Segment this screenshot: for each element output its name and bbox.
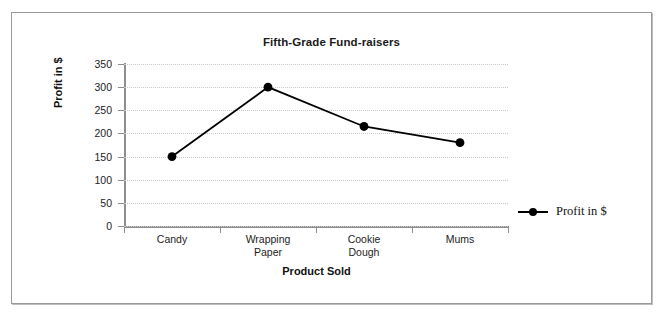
x-axis-title: Product Sold	[124, 265, 509, 277]
legend-label-profit: Profit in $	[556, 204, 607, 219]
data-point-marker: Mums: 180	[456, 138, 465, 147]
y-axis-tick-label: 150	[80, 151, 112, 163]
data-point-marker: Wrapping Paper: 300	[264, 83, 273, 92]
y-axis-tick	[118, 133, 124, 134]
y-axis-tick-label: 250	[80, 104, 112, 116]
y-axis-tick-labels: 050100150200250300350	[80, 0, 112, 317]
y-axis-tick-label: 200	[80, 127, 112, 139]
legend-marker-icon	[518, 206, 548, 218]
y-axis-tick	[118, 203, 124, 204]
plot-area: Candy: 150Wrapping Paper: 300Cookie Doug…	[124, 64, 508, 226]
x-axis-category-label: Candy	[117, 233, 227, 246]
y-axis-tick-label: 300	[80, 81, 112, 93]
y-axis-title: Profit in $	[52, 57, 64, 108]
y-axis-tick-label: 50	[80, 197, 112, 209]
y-axis-tick-label: 0	[80, 220, 112, 232]
y-axis-tick	[118, 157, 124, 158]
y-axis-tick	[118, 64, 124, 65]
y-axis-tick-label: 350	[80, 58, 112, 70]
chart-legend: Profit in $	[518, 204, 607, 219]
data-point-marker: Cookie Dough: 215	[360, 122, 369, 131]
y-axis-tick	[118, 87, 124, 88]
x-axis-category-label: Mums	[405, 233, 515, 246]
y-axis-tick	[118, 180, 124, 181]
x-axis-category-label: CookieDough	[309, 233, 419, 258]
y-axis-tick-label: 100	[80, 174, 112, 186]
data-series-profit: Candy: 150Wrapping Paper: 300Cookie Doug…	[124, 64, 508, 226]
y-axis-tick	[118, 110, 124, 111]
chart-page: Fifth-Grade Fund-raisers Profit in $ 050…	[0, 0, 663, 317]
series-line	[172, 87, 460, 156]
data-point-marker: Candy: 150	[168, 152, 177, 161]
x-axis-category-label: WrappingPaper	[213, 233, 323, 258]
